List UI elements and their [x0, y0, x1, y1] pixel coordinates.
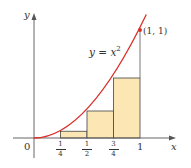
rectangle-3	[114, 78, 141, 138]
y-axis-label: y	[24, 10, 30, 20]
point-one-one	[138, 28, 142, 32]
tick-half-num: 1	[82, 141, 92, 150]
rectangle-1	[61, 131, 88, 138]
origin-label: 0	[24, 142, 30, 152]
x-axis-label: x	[171, 142, 177, 152]
tick-three-quarters-den: 4	[109, 150, 119, 158]
curve-label-exponent: 2	[116, 45, 120, 53]
rectangle-2	[87, 111, 114, 138]
tick-quarter: 1 4	[56, 141, 66, 158]
tick-one: 1	[137, 142, 143, 152]
y-axis-arrow-icon	[32, 13, 37, 20]
rectangles	[61, 78, 141, 138]
curve-label: y = x2	[89, 46, 121, 57]
point-label: (1, 1)	[143, 27, 167, 36]
x-axis-arrow-icon	[169, 136, 176, 141]
tick-half-den: 2	[82, 150, 92, 158]
tick-quarter-den: 4	[56, 150, 66, 158]
tick-three-quarters-num: 3	[109, 141, 119, 150]
tick-three-quarters: 3 4	[109, 141, 119, 158]
curve-label-text: y = x	[89, 46, 116, 58]
tick-half: 1 2	[82, 141, 92, 158]
tick-quarter-num: 1	[56, 141, 66, 150]
